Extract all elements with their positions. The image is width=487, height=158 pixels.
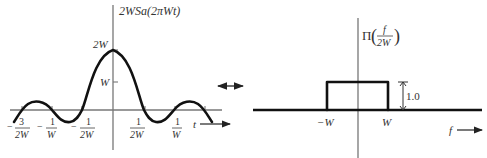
sinc-y-label: 2WSa(2πWt) (119, 4, 180, 18)
svg-text:2W: 2W (80, 129, 95, 140)
x-tick-label-neg3over2w: − 3 2W (7, 116, 30, 140)
sinc-plot: 2WSa(2πWt) 2W W − 3 2W − 1 W − 1 2W 1 2W (7, 4, 230, 150)
x-tick-label-neg1overw: − 1 W (37, 116, 57, 140)
sinc-x-label: t (193, 118, 197, 130)
rect-y-label: Π ( f 2W ) (362, 24, 400, 48)
svg-text:3: 3 (19, 116, 24, 127)
x-tick-label-1over2w: 1 2W (130, 116, 145, 140)
fourier-pair-diagram: 2WSa(2πWt) 2W W − 3 2W − 1 W − 1 2W 1 2W (0, 0, 487, 158)
svg-text:): ) (394, 26, 400, 47)
svg-text:W: W (47, 129, 57, 140)
svg-text:2W: 2W (377, 37, 392, 48)
svg-text:f: f (383, 24, 387, 35)
x-tick-label-neg-w: −W (317, 116, 334, 128)
y-tick-label-2w: 2W (93, 38, 109, 50)
svg-text:1: 1 (86, 116, 91, 127)
svg-text:1: 1 (50, 116, 55, 127)
svg-text:1: 1 (175, 116, 180, 127)
svg-text:2W: 2W (15, 129, 30, 140)
x-tick-label-1overw: 1 W (172, 116, 182, 140)
rect-plot: 1.0 Π ( f 2W ) −W W f (253, 18, 482, 158)
svg-text:−: − (71, 121, 77, 132)
x-tick-label-w: W (382, 116, 392, 128)
rect-x-label: f (449, 124, 454, 136)
y-tick-label-w: W (100, 76, 110, 88)
svg-text:−: − (37, 121, 43, 132)
svg-text:W: W (172, 129, 182, 140)
svg-text:−: − (7, 121, 13, 132)
height-label: 1.0 (406, 90, 420, 102)
svg-text:Π: Π (362, 28, 371, 43)
svg-text:1: 1 (136, 116, 141, 127)
svg-text:2W: 2W (130, 129, 145, 140)
